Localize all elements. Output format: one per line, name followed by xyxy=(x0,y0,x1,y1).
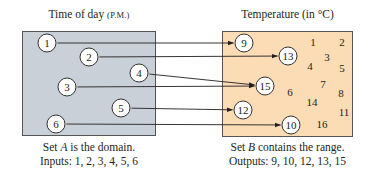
domain-title-suffix: (P.M.) xyxy=(107,10,129,20)
range-value-1: 1 xyxy=(310,36,316,48)
domain-node-5: 5 xyxy=(112,99,131,118)
domain-caption: Set A is the domain. Inputs: 1, 2, 3, 4,… xyxy=(22,140,156,168)
range-value-4: 4 xyxy=(307,60,313,72)
range-title: Temperature (in °C) xyxy=(222,8,353,20)
domain-caption-line2: Inputs: 1, 2, 3, 4, 5, 6 xyxy=(22,154,156,168)
domain-caption-line1: Set A is the domain. xyxy=(22,140,156,154)
range-value-2: 2 xyxy=(339,36,345,48)
domain-title-text: Time of day xyxy=(48,8,104,20)
range-value-3: 3 xyxy=(324,51,330,63)
domain-node-6: 6 xyxy=(47,115,66,134)
range-node-9: 9 xyxy=(235,34,254,53)
range-value-11: 11 xyxy=(339,106,350,118)
range-value-16: 16 xyxy=(317,118,328,130)
range-value-5: 5 xyxy=(339,62,345,74)
range-value-14: 14 xyxy=(307,96,318,108)
domain-node-1: 1 xyxy=(38,34,57,53)
domain-node-3: 3 xyxy=(58,78,77,97)
range-node-15: 15 xyxy=(256,77,275,96)
range-value-8: 8 xyxy=(338,87,344,99)
range-node-12: 12 xyxy=(234,101,253,120)
domain-title: Time of day (P.M.) xyxy=(22,8,156,20)
range-value-6: 6 xyxy=(287,86,293,98)
domain-node-4: 4 xyxy=(130,64,149,83)
range-node-13: 13 xyxy=(279,47,298,66)
domain-node-2: 2 xyxy=(80,48,99,67)
range-value-7: 7 xyxy=(320,78,326,90)
range-caption: Set B contains the range. Outputs: 9, 10… xyxy=(222,140,353,168)
range-caption-line2: Outputs: 9, 10, 12, 13, 15 xyxy=(222,154,353,168)
range-caption-line1: Set B contains the range. xyxy=(222,140,353,154)
range-node-10: 10 xyxy=(282,116,301,135)
